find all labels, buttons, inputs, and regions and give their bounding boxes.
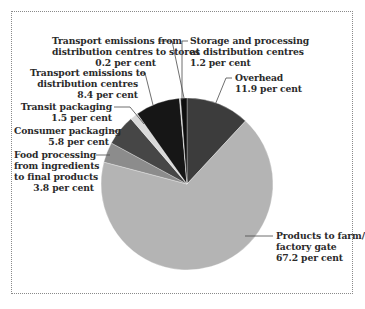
- label-food: Food processing from ingredients to fina…: [14, 149, 94, 193]
- label-transit: Transit packaging 1.5 per cent: [20, 101, 112, 123]
- label-consumer: Consumer packaging 5.8 per cent: [14, 125, 109, 147]
- pie-slices: [101, 98, 273, 270]
- label-storage: Storage and processing at distribution c…: [190, 35, 309, 68]
- leader-overhead: [215, 78, 232, 105]
- label-overhead: Overhead 11.9 per cent: [235, 72, 302, 94]
- label-transport-from: Transport emissions from distribution ce…: [52, 35, 156, 68]
- label-transport-to: Transport emissions to distribution cent…: [30, 67, 138, 100]
- label-products: Products to farm/ factory gate 67.2 per …: [276, 230, 365, 263]
